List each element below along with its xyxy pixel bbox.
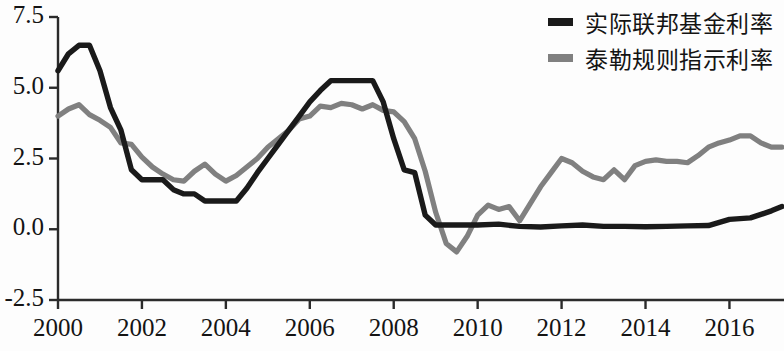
chart-legend: 实际联邦基金利率 泰勒规则指示利率 bbox=[548, 4, 780, 76]
x-axis-tick-label: 2006 bbox=[270, 314, 350, 342]
y-axis-tick-label: 5.0 bbox=[13, 72, 44, 100]
y-axis-tick-label: 2.5 bbox=[13, 143, 44, 171]
x-axis-tick-label: 2016 bbox=[689, 314, 769, 342]
legend-swatch-actual-fed-funds bbox=[548, 18, 573, 26]
y-axis-tick-label: 0.0 bbox=[13, 213, 44, 241]
legend-label-taylor-rule: 泰勒规则指示利率 bbox=[585, 41, 773, 75]
y-axis-tick-label: -2.5 bbox=[4, 284, 44, 312]
legend-item-taylor-rule: 泰勒规则指示利率 bbox=[548, 40, 780, 76]
x-axis-tick-label: 2012 bbox=[522, 314, 602, 342]
x-axis-tick-label: 2014 bbox=[606, 314, 686, 342]
x-axis-ticks bbox=[58, 300, 729, 309]
x-axis-tick-label: 2010 bbox=[438, 314, 518, 342]
series-layer bbox=[58, 45, 782, 252]
y-axis-ticks bbox=[49, 17, 58, 300]
chart-container: 7.55.02.50.0-2.5 20002002200420062008201… bbox=[0, 0, 784, 351]
x-axis-tick-label: 2004 bbox=[186, 314, 266, 342]
x-axis-tick-label: 2002 bbox=[102, 314, 182, 342]
x-axis-tick-label: 2008 bbox=[354, 314, 434, 342]
y-axis-tick-label: 7.5 bbox=[13, 1, 44, 29]
legend-swatch-taylor-rule bbox=[548, 54, 573, 62]
x-axis-tick-label: 2000 bbox=[18, 314, 98, 342]
series-line-taylor-rule bbox=[58, 103, 782, 252]
legend-item-actual-fed-funds: 实际联邦基金利率 bbox=[548, 4, 780, 40]
legend-label-actual-fed-funds: 实际联邦基金利率 bbox=[585, 5, 773, 39]
